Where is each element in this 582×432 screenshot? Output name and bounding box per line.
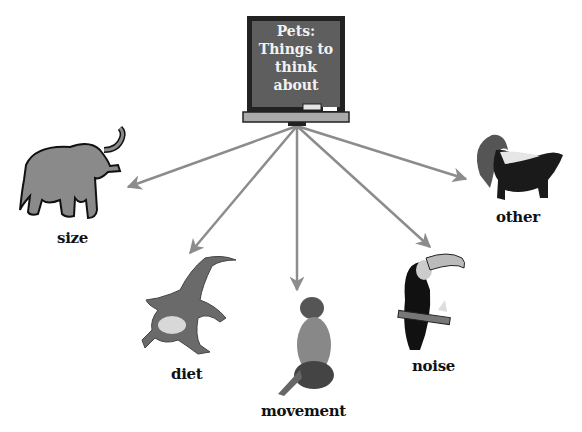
central-node: Pets: Things to think about	[245, 18, 347, 118]
crocodile-icon	[142, 256, 236, 354]
arrow-to-other	[297, 126, 466, 179]
central-line-2: Things to	[245, 40, 347, 58]
monkey-icon	[278, 297, 334, 396]
node-label-movement: movement	[261, 402, 346, 420]
arrow-to-noise	[297, 126, 430, 247]
toucan-icon	[398, 254, 465, 350]
central-node-text: Pets: Things to think about	[245, 22, 347, 94]
node-label-other: other	[496, 208, 540, 226]
central-line-1: Pets:	[245, 22, 347, 40]
node-label-size: size	[57, 229, 88, 247]
elephant-icon	[20, 128, 123, 218]
central-line-3: think	[245, 58, 347, 76]
central-line-4: about	[245, 76, 347, 94]
node-label-noise: noise	[412, 357, 455, 375]
skunk-icon	[477, 135, 563, 200]
node-label-diet: diet	[171, 365, 202, 383]
